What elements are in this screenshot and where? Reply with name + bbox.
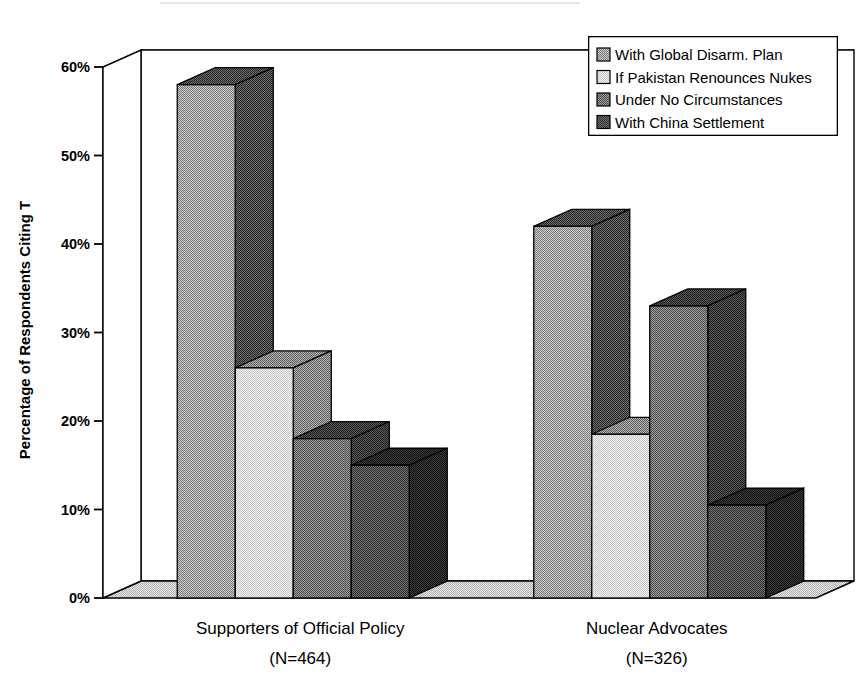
y-tick-label: 40% [61, 236, 90, 252]
x-axis-group-label: Supporters of Official Policy [196, 619, 405, 638]
legend-item-label: If Pakistan Renounces Nukes [615, 69, 812, 86]
legend-swatch-series-1 [597, 48, 610, 61]
y-axis-ticks: 60%50%40%30%20%10%0% [61, 59, 103, 606]
legend-swatch-series-4 [597, 116, 610, 129]
y-tick-label: 30% [61, 325, 90, 341]
y-tick-label: 50% [61, 148, 90, 164]
legend-item-label: With China Settlement [615, 114, 765, 131]
x-axis-group-count: (N=464) [269, 649, 331, 668]
legend-item-label: Under No Circumstances [615, 91, 783, 108]
bar-series-4-group-2 [708, 488, 804, 598]
chart-legend: With Global Disarm. PlanIf Pakistan Reno… [588, 36, 838, 136]
legend-swatch-series-2 [597, 71, 610, 84]
bar-series-4-group-1 [351, 448, 447, 598]
scan-artifact [160, 2, 580, 4]
y-tick-label: 10% [61, 502, 90, 518]
x-axis-group-label: Nuclear Advocates [586, 619, 728, 638]
y-tick-label: 0% [69, 590, 90, 606]
chart-page: 60%50%40%30%20%10%0% Supporters of Offic… [0, 0, 859, 690]
y-axis-title: Percentage of Respondents Citing T [16, 201, 33, 459]
legend-swatch-series-3 [597, 93, 610, 106]
y-tick-label: 60% [61, 59, 90, 75]
category-labels: Supporters of Official Policy(N=464)Nucl… [196, 619, 728, 668]
x-axis-group-count: (N=326) [626, 649, 688, 668]
y-tick-label: 20% [61, 413, 90, 429]
legend-item-label: With Global Disarm. Plan [615, 46, 783, 63]
